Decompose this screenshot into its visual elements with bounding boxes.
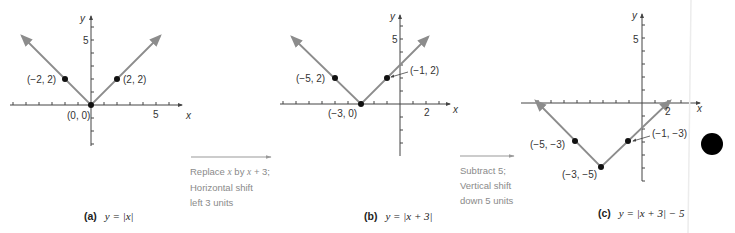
point-label: (−5, −3): [530, 139, 565, 150]
point: [88, 102, 94, 108]
caption-equation: y = |x + 3| − 5: [619, 207, 685, 219]
caption-c: (c)y = |x + 3| − 5: [598, 207, 684, 219]
transform-note-2: Subtract 5; Vertical shift down 5 units: [460, 163, 513, 208]
panel-a-graph: y x 5 5 (−2, 2) (0, 0) (2, 2): [10, 13, 192, 146]
x-tick-label: 5: [153, 109, 159, 120]
caption-b: (b)y = |x + 3|: [364, 210, 433, 222]
y-axis-label: y: [631, 10, 638, 21]
point: [384, 75, 390, 81]
panel-c-graph: y x 5 2 (−5, −3) (−3, −5) (−1, −3): [521, 10, 703, 181]
point: [358, 101, 364, 107]
x-tick-label: 2: [424, 107, 430, 118]
point-label: (2, 2): [123, 74, 146, 85]
panel-b-graph: y x 5 2 (−5, 2) (−3, 0) (−1, 2): [280, 11, 459, 156]
caption-equation: y = |x + 3|: [385, 210, 432, 222]
point-label: (0, 0): [67, 110, 90, 121]
point-label: (−1, −3): [652, 128, 687, 139]
y-tick-label: 5: [633, 34, 639, 45]
caption-equation: y = |x|: [105, 210, 134, 222]
y-axis-label: y: [79, 13, 86, 24]
point: [625, 138, 631, 144]
y-tick-label: 5: [392, 34, 398, 45]
y-axis-label: y: [389, 11, 396, 22]
point-label: (−2, 2): [27, 74, 56, 85]
point: [598, 164, 604, 170]
caption-tag: (c): [598, 207, 611, 219]
transform-note-1: Replace x by x + 3; Horizontal shift lef…: [190, 164, 270, 210]
point-label: (−1, 2): [410, 65, 439, 76]
caption-tag: (a): [84, 210, 97, 222]
graph-line: [292, 37, 428, 104]
point-label: (−3, 0): [328, 108, 357, 119]
x-axis-label: x: [185, 110, 192, 121]
x-axis-label: x: [696, 103, 703, 114]
caption-a: (a)y = |x|: [84, 210, 134, 222]
y-tick-label: 5: [83, 35, 89, 46]
point: [62, 76, 68, 82]
point-label: (−5, 2): [296, 73, 325, 84]
point: [572, 138, 578, 144]
page-edge-line: [688, 0, 691, 233]
point: [114, 76, 120, 82]
caption-tag: (b): [364, 210, 377, 222]
ink-blot: [701, 133, 723, 155]
graph-line: [536, 101, 670, 167]
point: [332, 75, 338, 81]
x-axis-label: x: [452, 104, 459, 115]
x-tick-label: 2: [665, 106, 671, 117]
figure-absolute-value-transformations: y x 5 5 (−2, 2) (0, 0) (2, 2) y x 5 2 (−…: [0, 0, 735, 233]
point-label: (−3, −5): [562, 169, 597, 180]
